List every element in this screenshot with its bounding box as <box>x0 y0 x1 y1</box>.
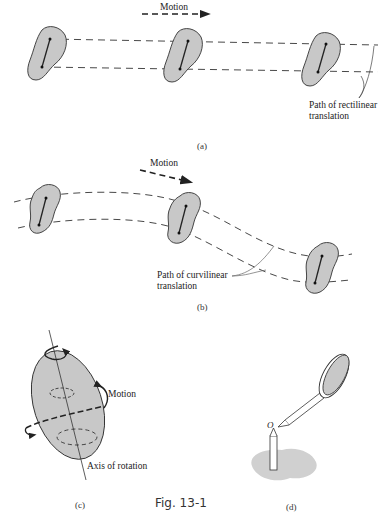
caption-c: (c) <box>75 500 85 510</box>
axis-of-rotation-label: Axis of rotation <box>87 461 147 472</box>
panel-c-rotation <box>18 330 117 480</box>
rigid-body-a2 <box>164 29 203 82</box>
path-label-b-line1: Path of curvilinear <box>157 270 228 281</box>
panel-d-spinning-top <box>251 350 355 481</box>
ground-shadow <box>251 449 316 481</box>
caption-d: (d) <box>286 502 297 512</box>
figure-title: Fig. 13-1 <box>155 496 207 510</box>
point-o-label: O <box>267 420 274 431</box>
motion-arrow-b <box>140 170 190 182</box>
rotating-body <box>18 341 117 469</box>
rigid-body-b3 <box>306 243 339 294</box>
path-label-b-line2: translation <box>157 281 197 292</box>
motion-label-b: Motion <box>150 158 178 169</box>
path-label-a-line2: translation <box>309 111 349 122</box>
rigid-body-b1 <box>30 185 61 234</box>
path-label-a-line1: Path of rectilinear <box>309 100 377 111</box>
panel-a-rectilinear <box>28 14 378 98</box>
caption-a: (a) <box>197 141 207 151</box>
rigid-body-a1 <box>28 27 67 80</box>
motion-label-c: Motion <box>108 389 136 400</box>
caption-b: (b) <box>197 302 208 312</box>
motion-label-a: Motion <box>160 2 188 13</box>
rigid-body-a3 <box>302 33 341 86</box>
figure-canvas <box>0 0 381 519</box>
